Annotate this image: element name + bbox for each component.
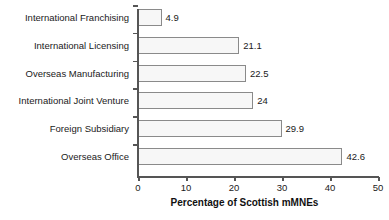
plot-area: 4.9 21.1 22.5 24 29.9 42.6 [138,9,378,176]
y-axis-label-1: International Licensing [34,37,129,54]
x-axis-tick-label: 50 [363,182,389,194]
bar-value-2: 22.5 [250,65,269,82]
x-axis-tick [138,177,140,181]
x-axis-tick [234,177,236,181]
x-axis-tick-label: 10 [171,182,201,194]
y-axis-tick [133,144,138,146]
bar-0 [138,9,162,26]
x-axis-tick [186,177,188,181]
x-axis-tick [282,177,284,181]
bar-value-5: 42.6 [346,148,365,165]
y-axis-label-5: Overseas Office [61,148,129,165]
bar-chart: International Franchising International … [0,0,389,220]
y-axis-label-2: Overseas Manufacturing [26,65,130,82]
bar-1 [138,37,239,54]
x-axis-tick [330,177,332,181]
x-axis-tick-label: 40 [315,182,345,194]
y-axis-tick [133,33,138,35]
bar-value-4: 29.9 [286,120,305,137]
bar-3 [138,92,253,109]
bar-2 [138,65,246,82]
y-axis-tick [133,5,138,7]
x-axis-line [137,176,379,178]
y-axis-label-0: International Franchising [25,9,129,26]
y-axis-category-labels: International Franchising International … [0,9,134,176]
y-axis-tick [133,61,138,63]
y-axis-tick [133,116,138,118]
bar-5 [138,148,342,165]
y-axis-tick [133,88,138,90]
x-axis-tick-label: 20 [219,182,249,194]
x-axis-tick-label: 0 [123,182,153,194]
x-axis-tick [378,177,380,181]
y-axis-label-4: Foreign Subsidiary [50,120,129,137]
bar-4 [138,120,282,137]
bar-value-1: 21.1 [243,37,262,54]
y-axis-label-3: International Joint Venture [19,92,129,109]
x-axis-title: Percentage of Scottish mMNEs [0,197,389,208]
x-axis-tick-label: 30 [267,182,297,194]
bar-value-3: 24 [257,92,268,109]
bar-value-0: 4.9 [166,9,179,26]
